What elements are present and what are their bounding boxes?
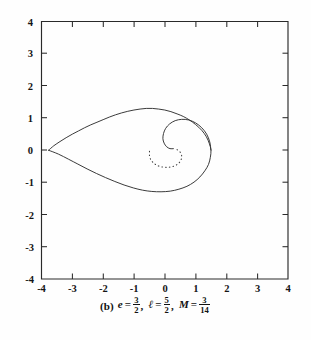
y-axis-ticks (42, 53, 289, 247)
orbit-solid-spiral (163, 119, 211, 150)
figure-caption: (b)e=32,ℓ=52,M=314 (0, 296, 311, 316)
y-axis-tick-labels: 4 3 2 1 0 -1 -2 -3 -4 (25, 17, 34, 285)
figure-container: 4 3 2 1 0 -1 -2 -3 -4 -4 -3 -2 -1 0 1 2 … (0, 0, 311, 340)
x-tick-label: 1 (193, 283, 198, 294)
y-tick-label: 0 (28, 145, 33, 156)
x-tick-label: 2 (224, 283, 229, 294)
caption-term-M: M=314 (179, 296, 211, 316)
caption-symbol-l: ℓ (148, 298, 153, 310)
x-tick-label: 0 (162, 283, 167, 294)
caption-symbol-M: M (179, 298, 189, 310)
caption-panel-label: (b) (100, 300, 114, 312)
caption-term-l: ℓ=52 (148, 296, 171, 316)
x-tick-label: 4 (285, 283, 291, 294)
x-axis-ticks (72, 22, 257, 280)
caption-relation-e: = (125, 298, 131, 310)
y-tick-label: 4 (28, 17, 34, 28)
x-tick-label: -3 (68, 283, 77, 294)
x-tick-label: -2 (99, 283, 108, 294)
fraction-numerator: 5 (164, 296, 170, 306)
orbit-plot: 4 3 2 1 0 -1 -2 -3 -4 -4 -3 -2 -1 0 1 2 … (0, 0, 311, 340)
y-tick-label: -3 (25, 242, 34, 253)
caption-fraction-e: 32 (133, 296, 139, 316)
caption-term-e: e=32 (118, 296, 141, 316)
caption-relation-M: = (191, 298, 197, 310)
caption-separator: , (171, 300, 174, 312)
fraction-numerator: 3 (133, 296, 139, 306)
orbit-dotted-tail (149, 150, 181, 168)
orbit-curve-layer (49, 108, 211, 191)
fraction-denominator: 2 (133, 305, 139, 315)
x-tick-label: 3 (255, 283, 260, 294)
plot-frame (42, 22, 289, 280)
caption-relation-l: = (155, 298, 161, 310)
y-tick-label: -2 (25, 210, 34, 221)
orbit-solid (49, 108, 211, 191)
y-tick-label: 1 (28, 113, 33, 124)
caption-fraction-M: 314 (199, 296, 210, 316)
x-tick-label: -1 (130, 283, 139, 294)
y-tick-label: 2 (28, 81, 33, 92)
y-tick-label: -1 (25, 177, 34, 188)
y-tick-label: 3 (28, 48, 33, 59)
fraction-denominator: 2 (164, 305, 170, 315)
fraction-numerator: 3 (199, 296, 210, 306)
caption-fraction-l: 52 (164, 296, 170, 316)
caption-symbol-e: e (118, 298, 123, 310)
y-tick-label: -4 (25, 274, 34, 285)
x-axis-tick-labels: -4 -3 -2 -1 0 1 2 3 4 (37, 283, 291, 294)
x-tick-label: -4 (37, 283, 46, 294)
caption-separator: , (141, 300, 144, 312)
fraction-denominator: 14 (199, 305, 210, 315)
